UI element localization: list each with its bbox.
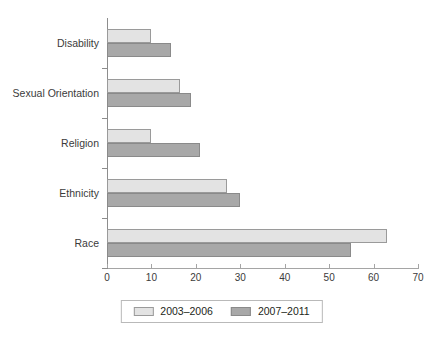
category-label: Religion	[61, 137, 99, 149]
legend-label: 2007–2011	[258, 305, 310, 317]
x-axis-tick-label: 0	[92, 272, 122, 284]
bar	[107, 179, 227, 193]
category-label: Race	[74, 237, 99, 249]
legend-label: 2003–2006	[160, 305, 213, 317]
x-axis-tick-label: 40	[270, 272, 300, 284]
bar	[107, 29, 151, 43]
bar-group: Disability	[107, 18, 418, 68]
category-label: Disability	[57, 37, 99, 49]
x-axis-tick-label: 50	[314, 272, 344, 284]
chart-legend: 2003–20062007–2011	[120, 300, 322, 323]
category-axis-tick	[102, 268, 108, 269]
x-axis-tick-label: 70	[403, 272, 433, 284]
bar	[107, 93, 191, 107]
value-axis-line	[107, 268, 418, 269]
bar-chart: 010203040506070 DisabilitySexual Orienta…	[0, 0, 443, 340]
bar-group: Ethnicity	[107, 168, 418, 218]
bar-group: Sexual Orientation	[107, 68, 418, 118]
x-axis-tick-label: 60	[359, 272, 389, 284]
bar-group: Religion	[107, 118, 418, 168]
legend-swatch-icon	[231, 307, 251, 316]
legend-item: 2007–2011	[231, 305, 310, 317]
legend-swatch-icon	[133, 307, 153, 316]
legend-item: 2003–2006	[133, 305, 213, 317]
x-axis-tick	[418, 264, 419, 269]
bar	[107, 229, 387, 243]
bar	[107, 193, 240, 207]
bar	[107, 243, 351, 257]
bar-group: Race	[107, 218, 418, 268]
bar	[107, 143, 200, 157]
bar	[107, 43, 171, 57]
plot-area: DisabilitySexual OrientationReligionEthn…	[107, 18, 418, 268]
x-axis-tick-label: 30	[225, 272, 255, 284]
bar	[107, 129, 151, 143]
x-axis-tick-label: 10	[136, 272, 166, 284]
category-label: Ethnicity	[59, 187, 99, 199]
category-label: Sexual Orientation	[13, 87, 99, 99]
x-axis-tick-label: 20	[181, 272, 211, 284]
bar	[107, 79, 180, 93]
